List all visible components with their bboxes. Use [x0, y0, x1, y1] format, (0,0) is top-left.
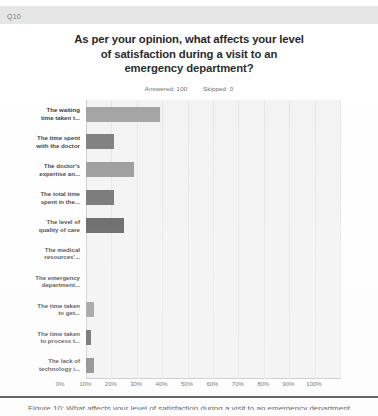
bar	[86, 190, 114, 205]
page-title-line-2: of satisfaction during a visit to an	[34, 47, 344, 62]
skipped-count: Skipped: 0	[203, 85, 233, 92]
caption-crop-mask	[0, 410, 378, 416]
category-label: The waitingtime taken t...	[26, 100, 80, 128]
question-number-label: Q10	[7, 13, 21, 20]
category-label: The time takento process t...	[26, 323, 80, 351]
question-number-band: Q10	[0, 6, 378, 24]
gridline	[340, 100, 341, 379]
x-axis-tick-label: 60%	[206, 381, 218, 387]
x-axis-tick-label: 20%	[105, 381, 117, 387]
category-label: The lack oftechnology i...	[26, 351, 80, 379]
survey-chart-page: Q10 As per your opinion, what affects yo…	[0, 0, 378, 416]
category-label-line: spent in the...	[41, 198, 80, 206]
category-label-line: to get...	[58, 309, 80, 317]
category-label-line: with the doctor	[36, 142, 80, 150]
x-axis-tick-label: 10%	[79, 381, 91, 387]
category-label: The emergencydepartment...	[26, 267, 80, 295]
category-label-line: resources'...	[44, 253, 80, 261]
chart-row: The total timespent in the...	[26, 184, 340, 212]
category-label-line: quality of care	[39, 226, 80, 234]
category-label: The time spentwith the doctor	[26, 128, 80, 156]
category-label-line: The emergency	[35, 274, 80, 282]
category-label-line: The lack of	[48, 357, 80, 365]
x-axis-tick-label: 90%	[283, 381, 295, 387]
bar	[86, 162, 134, 177]
category-label-line: The doctor's	[44, 162, 80, 170]
category-label-line: to process t...	[40, 337, 80, 345]
category-label-line: technology i...	[39, 365, 80, 373]
category-label-line: The medical	[45, 246, 80, 254]
chart-row: The level ofquality of care	[26, 212, 340, 240]
category-label: The level ofquality of care	[26, 212, 80, 240]
category-label-line: The level of	[46, 218, 80, 226]
chart-row: The time takento get...	[26, 295, 340, 323]
caption-divider	[0, 396, 378, 398]
category-label-line: The time taken	[37, 330, 80, 338]
category-label-line: department...	[42, 281, 80, 289]
category-label: The medicalresources'...	[26, 240, 80, 268]
x-axis-tick-label: 80%	[257, 381, 269, 387]
chart-row: The time takento process t...	[26, 323, 340, 351]
bar	[86, 134, 114, 149]
chart-row: The emergencydepartment...	[26, 267, 340, 295]
x-axis-tick-label: 50%	[181, 381, 193, 387]
category-label: The time takento get...	[26, 295, 80, 323]
page-title: As per your opinion, what affects your l…	[34, 32, 344, 76]
bar	[86, 107, 160, 122]
x-axis-tick-labels: 0%10%20%30%40%50%60%70%80%90%100%	[26, 381, 340, 393]
chart-row: The waitingtime taken t...	[26, 100, 340, 128]
bar-chart: The waitingtime taken t...The time spent…	[26, 100, 340, 379]
category-label-line: time taken t...	[41, 114, 80, 122]
chart-row: The medicalresources'...	[26, 240, 340, 268]
chart-row: The doctor'sexpertise an...	[26, 156, 340, 184]
bar	[86, 358, 94, 373]
x-axis-tick-label: 30%	[130, 381, 142, 387]
bar	[86, 302, 94, 317]
chart-row: The lack oftechnology i...	[26, 351, 340, 379]
response-summary: Answered: 100 Skipped: 0	[34, 85, 344, 92]
category-label-line: The time spent	[37, 134, 80, 142]
chart-row: The time spentwith the doctor	[26, 128, 340, 156]
category-label-line: The waiting	[46, 106, 80, 114]
category-label-line: The time taken	[37, 302, 80, 310]
x-axis-tick-label: 70%	[232, 381, 244, 387]
x-axis-tick-label: 40%	[156, 381, 168, 387]
category-label-line: expertise an...	[39, 170, 80, 178]
answered-count: Answered: 100	[145, 85, 188, 92]
page-title-line-3: emergency department?	[34, 61, 344, 76]
category-label: The doctor'sexpertise an...	[26, 156, 80, 184]
x-axis-tick-label: 0%	[56, 381, 65, 387]
bar	[86, 218, 124, 233]
category-label-line: The total time	[40, 190, 80, 198]
category-label: The total timespent in the...	[26, 184, 80, 212]
x-axis-tick-label: 100%	[306, 381, 321, 387]
bar	[86, 330, 91, 345]
page-title-line-1: As per your opinion, what affects your l…	[34, 32, 344, 47]
